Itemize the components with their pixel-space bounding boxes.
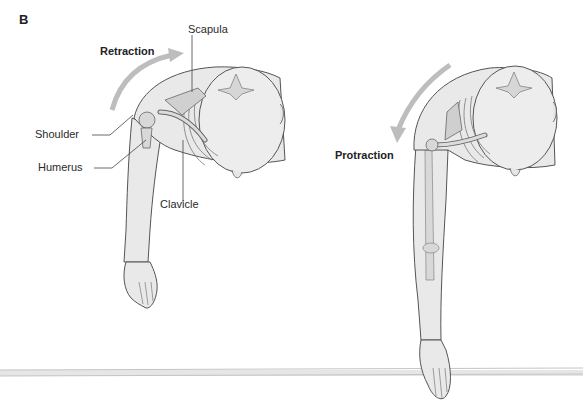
panel-letter: B [19,12,28,27]
protraction-figure [390,65,557,399]
table-edge [0,368,583,376]
retraction-label: Retraction [100,45,154,57]
anatomy-illustration [0,0,583,413]
clavicle-label: Clavicle [160,198,199,210]
head-shape [199,67,285,173]
protraction-label: Protraction [335,149,394,161]
shoulder-label: Shoulder [35,128,79,140]
scapula-label: Scapula [188,23,228,35]
retraction-figure [92,35,285,308]
humerus-label: Humerus [38,161,83,173]
